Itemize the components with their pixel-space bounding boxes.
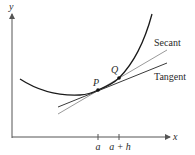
tick-label-a: a <box>96 141 101 152</box>
point-q-label: Q <box>111 64 119 75</box>
curve <box>20 14 152 95</box>
diagram-canvas: y x a a + h P Q Secant Tangent <box>0 0 195 155</box>
tangent-label: Tangent <box>154 71 186 82</box>
secant-label: Secant <box>154 37 181 48</box>
point-p-label: P <box>92 77 99 88</box>
point-q <box>117 76 121 80</box>
point-p <box>96 88 100 92</box>
tick-label-a-plus-h: a + h <box>109 141 131 152</box>
y-axis-label: y <box>8 1 14 12</box>
secant-line <box>58 50 167 114</box>
x-axis-label: x <box>172 131 178 142</box>
